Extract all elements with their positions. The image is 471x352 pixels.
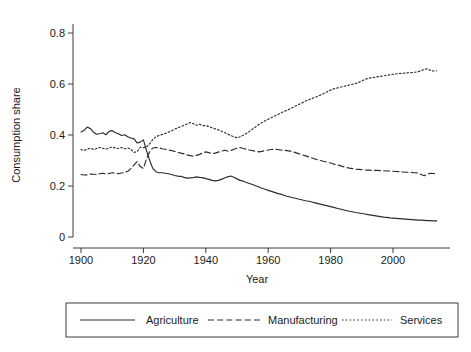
x-tick-label: 1920 — [131, 254, 155, 266]
x-tick-label: 1980 — [318, 254, 342, 266]
chart-figure: 00.20.40.60.8 190019201940196019802000 C… — [0, 0, 471, 352]
x-tick-label: 1900 — [69, 254, 93, 266]
x-tick-label: 2000 — [381, 254, 405, 266]
y-tick-label: 0.2 — [50, 180, 65, 192]
x-tick-label: 1940 — [194, 254, 218, 266]
chart-background — [0, 0, 471, 352]
y-tick-label: 0 — [59, 231, 65, 243]
legend-label-agriculture: Agriculture — [146, 314, 199, 326]
y-tick-label: 0.4 — [50, 129, 65, 141]
y-axis-title: Consumption share — [10, 87, 22, 182]
consumption-share-line-chart: 00.20.40.60.8 190019201940196019802000 C… — [0, 0, 471, 352]
y-tick-label: 0.6 — [50, 78, 65, 90]
legend-label-manufacturing: Manufacturing — [268, 314, 338, 326]
x-tick-label: 1960 — [256, 254, 280, 266]
x-axis-title: Year — [246, 273, 269, 285]
legend-label-services: Services — [400, 314, 443, 326]
y-tick-label: 0.8 — [50, 27, 65, 39]
